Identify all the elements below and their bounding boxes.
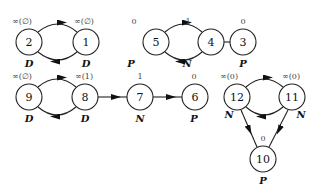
node-id: 2 [26,36,33,49]
node-id: 5 [153,36,160,49]
node-type-label: D [80,113,90,124]
node-id: 12 [230,91,244,104]
node-type-label: D [81,58,91,69]
graph-diagram: 2 ∞(∅) D 1 ∞(∅) D 5 0 P 4 1 N 3 0 P 9 ∞(… [0,0,313,194]
node-id: 9 [26,91,33,104]
edge-1-to-2 [38,52,77,60]
node-value-label: ∞(0) [220,72,238,81]
node-id: 3 [240,36,247,49]
node-value-label: 0 [240,17,245,26]
node-type-label: P [189,113,198,124]
node-1: 1 ∞(∅) D [73,17,99,69]
node-9: 9 ∞(∅) D [12,72,42,124]
node-id: 6 [192,91,199,104]
node-id: 4 [208,36,215,49]
node-11: 11 ∞(0) N [279,72,306,120]
edge-8-to-9 [38,107,76,115]
edge-12-to-10 [241,110,257,147]
node-value-label: ∞(0) [282,72,300,81]
node-5: 5 0 P [126,17,169,69]
node-8: 8 ∞(1) D [72,72,98,124]
edge-9-to-8 [38,79,76,87]
node-type-label: D [24,58,34,69]
node-id: 8 [82,91,89,104]
edge-11-to-10 [269,110,288,147]
edge-11-to-12 [246,107,283,115]
node-type-label: P [238,58,247,69]
node-value-label: ∞(∅) [74,17,94,26]
node-2: 2 ∞(∅) D [12,17,42,69]
node-3: 3 0 P [230,17,256,69]
node-type-label: N [134,113,145,124]
node-value-label: 1 [185,17,190,26]
node-type-label: N [295,109,306,120]
node-value-label: 0 [260,134,265,143]
node-12: 12 ∞(0) N [220,72,250,120]
node-value-label: ∞(∅) [12,17,32,26]
node-type-label: P [126,58,135,69]
node-value-label: ∞(1) [75,72,93,81]
edge-2-to-1 [38,24,77,32]
node-value-label: 0 [131,17,136,26]
edge-12-to-11 [246,79,283,87]
node-value-label: 1 [137,72,142,81]
node-id: 10 [256,153,270,166]
edge-5-to-4 [165,24,202,32]
node-7: 7 1 N [127,72,153,124]
node-id: 7 [137,91,144,104]
node-type-label: D [24,113,34,124]
node-type-label: N [181,58,192,69]
node-4: 4 1 N [181,17,224,69]
node-type-label: P [258,175,267,186]
node-value-label: ∞(∅) [12,72,32,81]
node-6: 6 0 P [182,72,208,124]
node-id: 11 [285,91,299,104]
node-id: 1 [83,36,90,49]
node-value-label: 0 [191,72,196,81]
node-type-label: N [223,109,234,120]
